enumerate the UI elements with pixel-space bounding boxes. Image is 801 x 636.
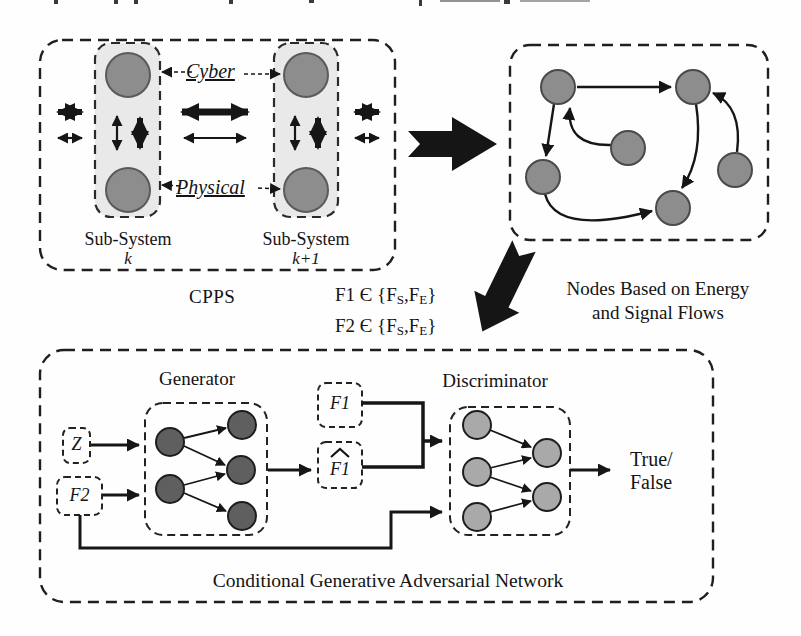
physical-node-k1 — [284, 168, 328, 212]
nodes-annotation: Nodes Based on Energy and Signal Flows — [520, 277, 796, 325]
subsystem-k1-index: k+1 — [248, 249, 364, 268]
generator-node — [156, 428, 184, 456]
label-pointers — [162, 72, 280, 189]
graph-node — [656, 191, 690, 225]
subsystem-k-title: Sub-System — [70, 229, 186, 249]
graph-node — [676, 70, 710, 104]
subsystem-k1-title: Sub-System — [248, 229, 364, 249]
generator-node — [228, 411, 256, 439]
f2-set-sub1: S — [397, 323, 404, 338]
f1-hat-label: F1 — [318, 459, 362, 479]
true-label: True/ — [630, 448, 673, 471]
cropped-caption-fragments — [54, 0, 590, 6]
f2-set-prefix: F2 Є {F — [335, 315, 397, 336]
physical-label: Physical — [176, 176, 264, 198]
true-false-label: True/ False — [630, 448, 673, 494]
inter-subsystem-arrows — [182, 112, 248, 138]
nodes-annotation-line1: Nodes Based on Energy — [520, 277, 796, 301]
graph-nodes — [526, 70, 752, 225]
f1-set-suffix: } — [427, 284, 436, 305]
left-io-arrows — [58, 112, 82, 138]
discriminator-nodes — [463, 411, 561, 531]
generator-node — [156, 475, 184, 503]
discriminator-edges — [490, 430, 531, 512]
cyber-label: Cyber — [186, 60, 250, 82]
discriminator-node — [533, 483, 561, 511]
f1-set-sub1: S — [397, 292, 404, 307]
cgan-caption: Conditional Generative Adversarial Netwo… — [168, 570, 608, 592]
f2-set-suffix: } — [427, 315, 436, 336]
f1-hat-accent — [331, 449, 349, 457]
cyber-node-k1 — [284, 53, 328, 97]
f2-label: F2 — [57, 485, 102, 505]
subsystem-k1-label: Sub-System k+1 — [248, 229, 364, 268]
discriminator-node — [463, 458, 491, 486]
graph-node — [541, 70, 575, 104]
f2-set-mid: ,F — [404, 315, 419, 336]
f1-set-mid: ,F — [404, 284, 419, 305]
generator-nodes — [156, 411, 256, 530]
f1-set-sub2: E — [419, 292, 427, 307]
discriminator-node — [533, 439, 561, 467]
generator-io-arrows — [91, 445, 311, 495]
f1-merge-lines — [362, 403, 442, 467]
graph-node — [526, 160, 560, 194]
f1-label: F1 — [318, 393, 362, 413]
subsystem-k-index: k — [70, 249, 186, 268]
false-label: False — [630, 471, 673, 494]
cpps-label: CPPS — [189, 286, 235, 307]
generator-node — [228, 502, 256, 530]
discriminator-node — [463, 411, 491, 439]
nodes-annotation-line2: and Signal Flows — [520, 301, 796, 325]
f2-set-label: F2 Є {FS,FE} — [335, 315, 436, 336]
graph-node — [718, 153, 752, 187]
cyber-node-k — [106, 53, 150, 97]
generator-node — [227, 456, 255, 484]
physical-node-k — [106, 168, 150, 212]
subsystem-k-label: Sub-System k — [70, 229, 186, 268]
right-io-arrows — [355, 112, 379, 138]
graph-node — [611, 131, 645, 165]
z-label: Z — [63, 434, 90, 454]
f1-set-prefix: F1 Є {F — [335, 284, 397, 305]
f1-set-label: F1 Є {FS,FE} — [335, 284, 436, 305]
discriminator-node — [463, 503, 491, 531]
f2-set-sub2: E — [419, 323, 427, 338]
cgan-figure: Cyber Physical Sub-System k Sub-System k… — [0, 0, 801, 636]
generator-label: Generator — [140, 368, 254, 389]
discriminator-label: Discriminator — [429, 370, 561, 391]
cpps-to-graph-arrow — [408, 117, 497, 171]
generator-edges — [184, 428, 226, 511]
